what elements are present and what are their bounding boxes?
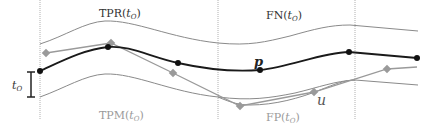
- u-marker: [383, 65, 391, 73]
- fp-lower-curve: [218, 80, 355, 105]
- fp-label: FP(tO): [266, 111, 300, 125]
- p-marker: [414, 55, 420, 61]
- upper-envelope-curve: [40, 21, 418, 44]
- p-path: [40, 47, 417, 71]
- u-marker: [169, 69, 177, 77]
- tolerance-bar: [27, 72, 35, 97]
- fn-label: FN(tO): [266, 9, 302, 23]
- trajectory-diagram: tO TPR(tO) FN(tO) TPM(tO) FP(tO) p u: [0, 0, 435, 131]
- p-marker: [105, 44, 111, 50]
- p-marker: [37, 68, 43, 74]
- p-marker: [346, 49, 352, 55]
- tpm-label: TPM(tO): [99, 109, 144, 123]
- u-path-label: u: [317, 92, 326, 108]
- tpr-label: TPR(tO): [99, 7, 141, 21]
- u-marker: [42, 49, 50, 57]
- tolerance-label: tO: [12, 79, 22, 93]
- p-path-label: p: [254, 54, 263, 69]
- p-marker: [175, 60, 181, 66]
